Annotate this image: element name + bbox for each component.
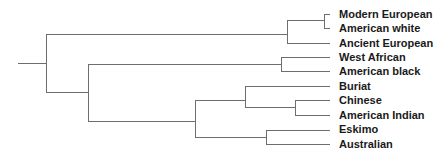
leaf-label-american-indian: American Indian xyxy=(339,109,425,121)
leaf-label-american-white: American white xyxy=(339,22,420,34)
leaf-label-eskimo: Eskimo xyxy=(339,123,378,135)
leaf-label-chinese: Chinese xyxy=(339,94,382,106)
leaf-label-american-black: American black xyxy=(339,65,420,77)
leaf-label-ancient-european: Ancient European xyxy=(339,37,433,49)
leaf-label-west-african: West African xyxy=(339,51,406,63)
leaf-label-modern-european: Modern European xyxy=(339,8,433,20)
leaf-label-australian: Australian xyxy=(339,138,393,150)
leaf-label-buriat: Buriat xyxy=(339,80,371,92)
